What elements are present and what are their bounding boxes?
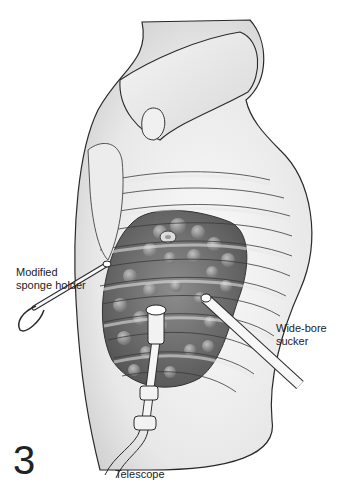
thoracoscopy-illustration — [0, 0, 342, 494]
figure-number: 3 — [13, 440, 35, 480]
label-wide-bore-sucker: Wide-bore sucker — [276, 322, 342, 348]
label-telescope: Telescope — [115, 468, 165, 481]
label-sponge-holder: Modified sponge holder — [16, 266, 96, 292]
